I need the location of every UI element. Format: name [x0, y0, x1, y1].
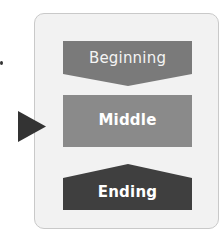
- stage-beginning: Beginning: [63, 41, 192, 87]
- triangle-right-icon: [18, 111, 46, 142]
- stage-middle: Middle: [63, 95, 192, 147]
- stage-ending: Ending: [63, 164, 192, 210]
- stage-label-middle: Middle: [63, 111, 192, 129]
- stage-label-ending: Ending: [63, 183, 192, 201]
- stage-label-beginning: Beginning: [63, 49, 192, 67]
- stray-mark: [0, 61, 3, 65]
